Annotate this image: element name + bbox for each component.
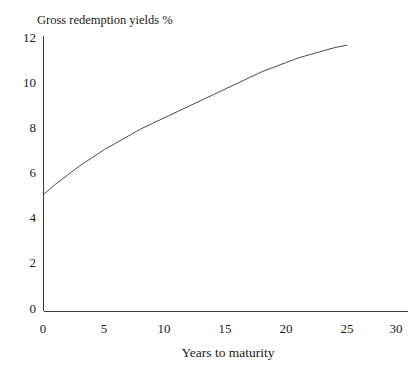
y-tick-label: 6 <box>30 165 37 180</box>
yield-curve-line <box>44 45 348 194</box>
chart-container: Gross redemption yields % 12 10 8 6 4 2 … <box>0 0 420 372</box>
x-axis-title: Years to maturity <box>181 345 274 360</box>
x-tick-label: 20 <box>280 321 293 336</box>
x-tick-label: 10 <box>158 321 171 336</box>
x-tick-label: 0 <box>40 321 47 336</box>
y-tick-label: 10 <box>23 75 36 90</box>
x-tick-label: 30 <box>390 321 403 336</box>
y-tick-label: 0 <box>30 301 37 316</box>
y-tick-label: 12 <box>23 30 36 45</box>
yield-curve-chart: Gross redemption yields % 12 10 8 6 4 2 … <box>0 0 420 372</box>
y-tick-label: 4 <box>30 210 37 225</box>
y-tick-label: 8 <box>30 120 37 135</box>
x-tick-label: 25 <box>341 321 354 336</box>
y-tick-label: 2 <box>30 255 37 270</box>
x-tick-label: 5 <box>101 321 108 336</box>
x-tick-label: 15 <box>219 321 232 336</box>
chart-title: Gross redemption yields % <box>37 13 173 27</box>
